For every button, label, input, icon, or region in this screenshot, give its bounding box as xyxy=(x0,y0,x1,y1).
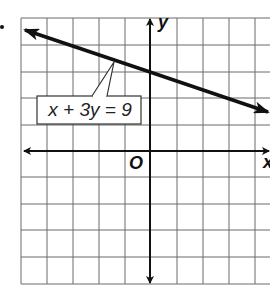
y-axis-label: y xyxy=(158,12,168,33)
graph-line-right xyxy=(150,72,268,112)
graph-line-left xyxy=(25,30,150,72)
x-axis-label: x xyxy=(263,152,270,173)
coordinate-plane xyxy=(0,0,270,293)
origin-label: O xyxy=(129,153,143,174)
equation-label: x + 3y = 9 xyxy=(40,99,140,121)
